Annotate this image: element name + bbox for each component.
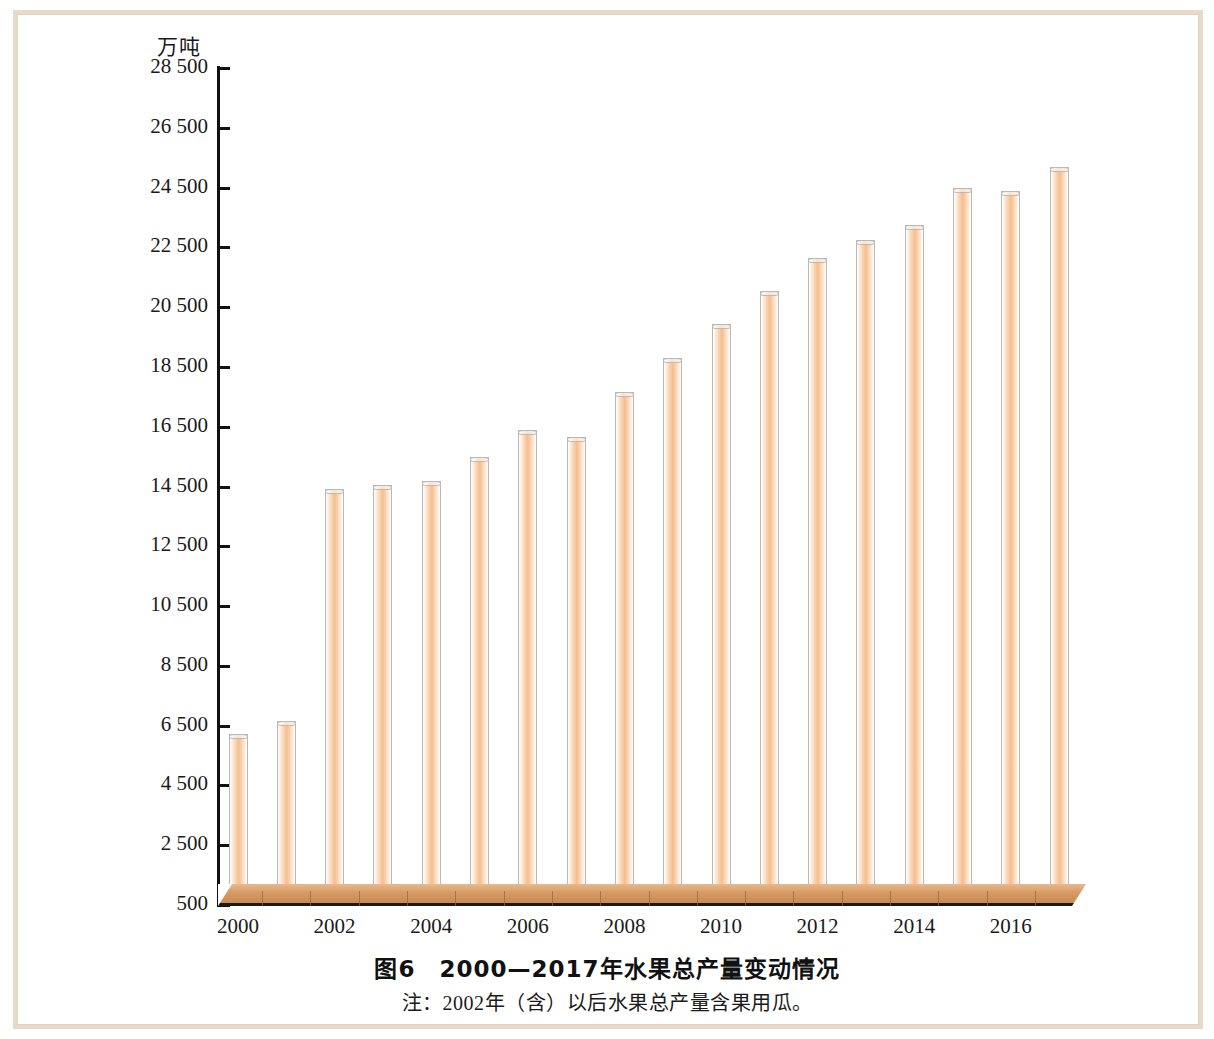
- bar-top-cap: [760, 291, 779, 296]
- y-axis-tick: [218, 366, 230, 369]
- y-axis-tick-label: 26 500: [150, 114, 208, 139]
- bar-top-cap: [325, 489, 344, 494]
- bar: [470, 457, 489, 890]
- y-axis-tick: [218, 306, 230, 309]
- figure-note: 注：2002年（含）以后水果总产量含果用瓜。: [0, 987, 1214, 1016]
- bar-top-cap: [856, 240, 875, 245]
- bar: [229, 734, 248, 890]
- x-axis-platform: [218, 884, 1086, 908]
- bar: [567, 437, 586, 890]
- y-axis-tick: [218, 665, 230, 668]
- bar: [1001, 191, 1020, 890]
- y-axis-tick: [218, 486, 230, 489]
- platform-seam: [890, 891, 891, 906]
- bar-top-cap: [567, 437, 586, 442]
- platform-seam: [1035, 891, 1036, 906]
- bar: [615, 392, 634, 890]
- platform-seam: [504, 891, 505, 906]
- bar-top-cap: [229, 734, 248, 739]
- y-axis-tick-labels: 28 50026 50024 50022 50020 50018 50016 5…: [120, 0, 208, 1039]
- y-axis-tick: [218, 545, 230, 548]
- bar-top-cap: [1050, 167, 1069, 172]
- y-axis-tick-label: 10 500: [150, 592, 208, 617]
- platform-seam: [987, 891, 988, 906]
- y-axis-tick-label: 12 500: [150, 532, 208, 557]
- x-axis-tick-label: 2006: [483, 914, 573, 939]
- bar: [808, 258, 827, 890]
- y-axis-tick-label: 22 500: [150, 233, 208, 258]
- y-axis-tick-label: 18 500: [150, 353, 208, 378]
- bar: [373, 485, 392, 890]
- bar: [422, 481, 441, 890]
- platform-seam: [262, 891, 263, 906]
- bar: [325, 489, 344, 890]
- platform-seam: [407, 891, 408, 906]
- bar-chart: 万吨 28 50026 50024 50022 50020 50018 5001…: [0, 0, 1214, 1039]
- x-axis-tick-label: 2008: [579, 914, 669, 939]
- bar: [712, 324, 731, 890]
- platform-seam: [310, 891, 311, 906]
- y-axis-tick: [218, 725, 230, 728]
- y-axis-tick: [218, 67, 230, 70]
- bar-top-cap: [808, 258, 827, 263]
- y-axis-tick: [218, 127, 230, 130]
- bar: [953, 188, 972, 890]
- bar: [518, 430, 537, 890]
- bar-top-cap: [615, 392, 634, 397]
- x-axis-tick-label: 2012: [773, 914, 863, 939]
- bar: [1050, 167, 1069, 890]
- platform-seam: [697, 891, 698, 906]
- bar: [905, 225, 924, 890]
- y-axis-tick-label: 4 500: [161, 771, 208, 796]
- y-axis-tick-label: 20 500: [150, 293, 208, 318]
- platform-seam: [793, 891, 794, 906]
- bar-top-cap: [422, 481, 441, 486]
- platform-seam: [600, 891, 601, 906]
- y-axis-tick-label: 500: [177, 891, 209, 916]
- y-axis-tick-label: 24 500: [150, 174, 208, 199]
- x-axis-tick-label: 2004: [386, 914, 476, 939]
- platform-seam: [842, 891, 843, 906]
- y-axis-tick: [218, 246, 230, 249]
- platform-seam: [649, 891, 650, 906]
- y-axis-tick-label: 6 500: [161, 712, 208, 737]
- y-axis-tick: [218, 605, 230, 608]
- y-axis-tick-label: 8 500: [161, 652, 208, 677]
- bar-top-cap: [905, 225, 924, 230]
- bar-top-cap: [1001, 191, 1020, 196]
- platform-seam: [745, 891, 746, 906]
- bar: [277, 721, 296, 890]
- platform-seam: [938, 891, 939, 906]
- platform-seam: [552, 891, 553, 906]
- bar: [760, 291, 779, 890]
- y-axis-tick-label: 2 500: [161, 831, 208, 856]
- figure-caption: 图6 2000—2017年水果总产量变动情况: [0, 950, 1214, 984]
- bar-top-cap: [953, 188, 972, 193]
- bar: [663, 358, 682, 890]
- x-axis-tick-label: 2016: [966, 914, 1056, 939]
- bar-top-cap: [663, 358, 682, 363]
- bar-top-cap: [712, 324, 731, 329]
- platform-seam: [455, 891, 456, 906]
- page-root: 万吨 28 50026 50024 50022 50020 50018 5001…: [0, 0, 1214, 1039]
- bar-top-cap: [470, 457, 489, 462]
- y-axis-tick-label: 14 500: [150, 473, 208, 498]
- y-axis-tick: [218, 426, 230, 429]
- platform-surface: [218, 884, 1086, 906]
- platform-left-bevel: [218, 884, 232, 906]
- bar: [856, 240, 875, 890]
- y-axis-tick-label: 28 500: [150, 54, 208, 79]
- y-axis-tick: [218, 187, 230, 190]
- bar-top-cap: [373, 485, 392, 490]
- bar-top-cap: [277, 721, 296, 726]
- x-axis-tick-label: 2010: [676, 914, 766, 939]
- bar-top-cap: [518, 430, 537, 435]
- platform-seam: [359, 891, 360, 906]
- y-axis-tick-label: 16 500: [150, 413, 208, 438]
- platform-right-bevel: [1072, 884, 1086, 906]
- x-axis-tick-label: 2000: [193, 914, 283, 939]
- x-axis-tick-label: 2014: [869, 914, 959, 939]
- x-axis-tick-label: 2002: [290, 914, 380, 939]
